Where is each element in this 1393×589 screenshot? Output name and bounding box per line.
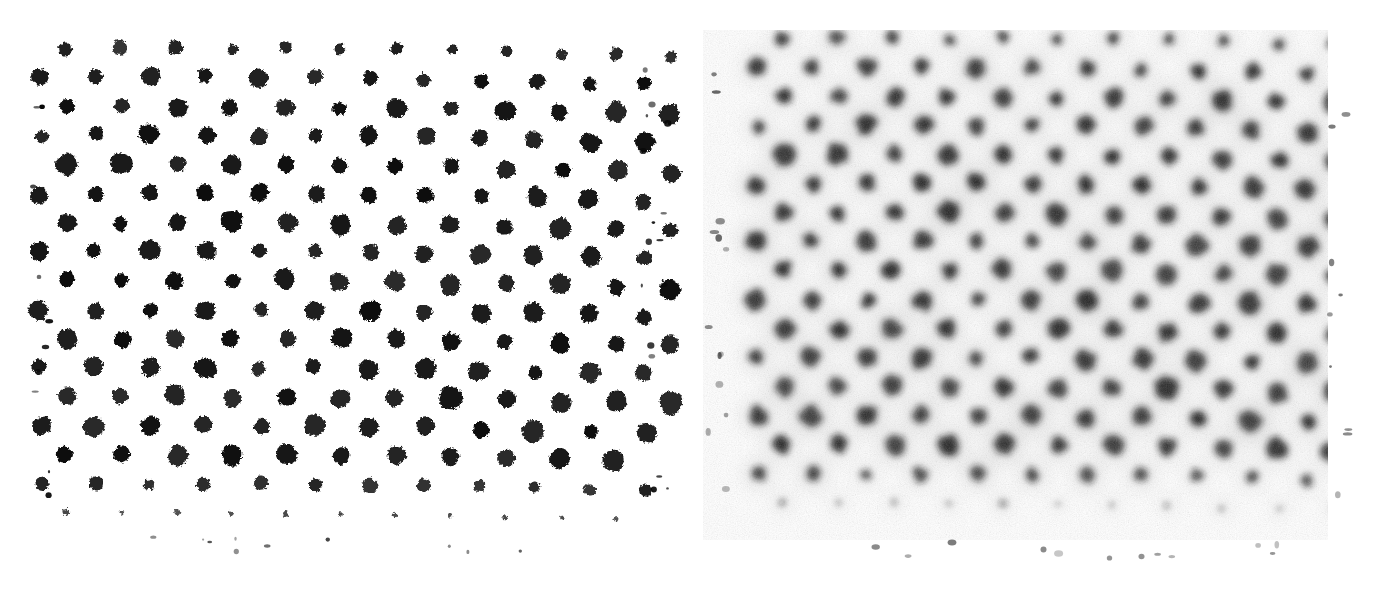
speck bbox=[705, 325, 713, 329]
speck bbox=[711, 72, 716, 76]
speck bbox=[646, 238, 652, 245]
speck bbox=[649, 354, 656, 359]
lattice-dot bbox=[278, 388, 296, 405]
lattice-dot bbox=[471, 304, 491, 323]
speck bbox=[46, 492, 52, 498]
speck bbox=[1335, 491, 1341, 498]
speck bbox=[1343, 432, 1353, 435]
speck bbox=[647, 342, 654, 348]
panel-left-binarized bbox=[0, 0, 700, 589]
lattice-dot bbox=[551, 393, 571, 413]
speck bbox=[1329, 259, 1334, 266]
speck bbox=[1275, 541, 1280, 548]
speck bbox=[1054, 550, 1063, 556]
speck bbox=[1327, 312, 1333, 316]
speck bbox=[1107, 555, 1112, 560]
speck bbox=[646, 114, 649, 118]
lattice-dot bbox=[495, 102, 517, 121]
speck bbox=[466, 550, 469, 554]
right-panel-content bbox=[703, 24, 1353, 540]
speck bbox=[661, 212, 667, 214]
speck bbox=[234, 537, 236, 541]
speck bbox=[42, 345, 49, 349]
lattice-dot bbox=[111, 153, 133, 173]
lattice-dot bbox=[444, 158, 459, 174]
lattice-dot bbox=[583, 485, 596, 496]
speck bbox=[666, 487, 669, 489]
lattice-dot bbox=[474, 74, 488, 88]
speck bbox=[207, 541, 212, 544]
speck bbox=[33, 106, 40, 109]
speck bbox=[712, 90, 721, 94]
speck bbox=[1041, 547, 1047, 553]
lattice-dot bbox=[283, 511, 289, 517]
speck bbox=[640, 148, 647, 154]
right-lattice-image bbox=[693, 0, 1393, 589]
speck bbox=[1338, 294, 1343, 297]
left-lattice-image bbox=[0, 0, 700, 589]
speck bbox=[39, 105, 45, 110]
speck bbox=[706, 428, 711, 436]
speck bbox=[45, 319, 53, 323]
lattice-dot bbox=[417, 478, 431, 492]
speck bbox=[652, 221, 656, 224]
speck bbox=[715, 234, 722, 241]
lattice-dot bbox=[388, 329, 406, 347]
speck bbox=[519, 549, 522, 552]
speck bbox=[724, 413, 729, 418]
speck bbox=[1255, 543, 1261, 548]
speck bbox=[643, 67, 648, 73]
speck bbox=[35, 369, 41, 372]
speck bbox=[264, 544, 271, 547]
lattice-dot bbox=[496, 219, 513, 234]
speck bbox=[723, 247, 729, 252]
speck bbox=[716, 218, 725, 224]
speck bbox=[1344, 428, 1352, 431]
speck bbox=[905, 554, 912, 558]
speck bbox=[30, 185, 36, 189]
lattice-dot bbox=[636, 194, 651, 210]
speck bbox=[326, 538, 330, 542]
speck bbox=[710, 230, 720, 234]
speck bbox=[448, 545, 451, 548]
lattice-dot bbox=[417, 127, 435, 144]
speck bbox=[150, 536, 156, 539]
speck bbox=[202, 539, 204, 541]
lattice-dot bbox=[309, 128, 322, 142]
speck bbox=[648, 102, 655, 108]
speck bbox=[718, 352, 722, 359]
speck bbox=[1154, 553, 1161, 556]
speck bbox=[1169, 555, 1176, 558]
speck bbox=[1329, 365, 1332, 368]
speck bbox=[32, 390, 39, 392]
right-film-grain bbox=[703, 30, 1328, 540]
speck bbox=[656, 239, 663, 241]
speck bbox=[651, 487, 657, 493]
speck bbox=[234, 549, 239, 555]
speck bbox=[1328, 124, 1335, 128]
speck bbox=[661, 283, 668, 287]
speck bbox=[722, 486, 730, 492]
speck bbox=[1342, 112, 1351, 117]
speck bbox=[716, 381, 724, 388]
speck bbox=[948, 539, 957, 545]
lattice-dot bbox=[195, 301, 215, 320]
panel-right-raw bbox=[693, 0, 1393, 589]
figure-root bbox=[0, 0, 1393, 589]
speck bbox=[872, 544, 880, 549]
lattice-dot bbox=[526, 131, 543, 148]
lattice-dot bbox=[444, 101, 459, 115]
speck bbox=[641, 284, 643, 288]
speck bbox=[656, 475, 662, 477]
speck bbox=[37, 275, 42, 279]
speck bbox=[48, 470, 50, 473]
speck bbox=[1139, 554, 1145, 559]
speck bbox=[1270, 552, 1276, 555]
speck bbox=[664, 120, 671, 127]
